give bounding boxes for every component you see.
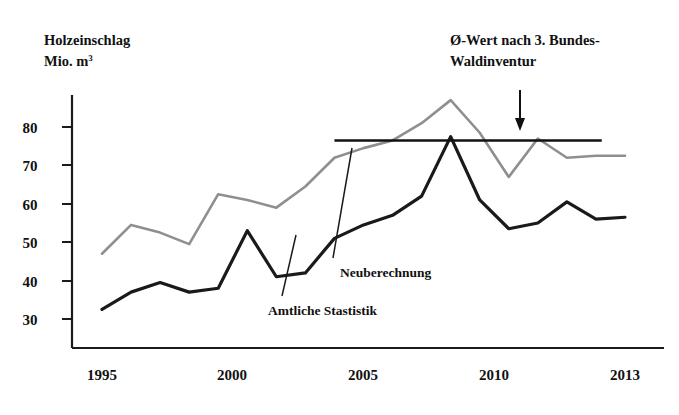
page-title: Holzeinschlag: [44, 32, 131, 48]
neuberechnung-label: Neuberechnung: [340, 265, 432, 280]
y-axis-unit-label: Mio. m3: [44, 53, 93, 69]
y-tick-label-80: 80: [23, 120, 38, 136]
x-tick-label-2010: 2010: [479, 367, 509, 383]
y-tick-label-50: 50: [23, 235, 38, 251]
reference-line-label-line2: Waldinventur: [450, 53, 537, 69]
y-tick-label-40: 40: [23, 274, 38, 290]
x-tick-label-2013: 2013: [610, 367, 640, 383]
reference-line-label-line1: Ø-Wert nach 3. Bundes-: [450, 32, 600, 48]
y-tick-label-30: 30: [23, 312, 38, 328]
amtliche-statistik-label: Amtliche Stastistik: [268, 303, 378, 318]
holzeinschlag-line-chart: Holzeinschlag Mio. m3 Ø-Wert nach 3. Bun…: [0, 0, 679, 415]
chart-container: Holzeinschlag Mio. m3 Ø-Wert nach 3. Bun…: [0, 0, 679, 415]
x-tick-label-2005: 2005: [348, 367, 378, 383]
y-tick-label-70: 70: [23, 158, 38, 174]
x-tick-label-2000: 2000: [217, 367, 247, 383]
y-tick-label-60: 60: [23, 197, 38, 213]
x-tick-label-1995: 1995: [87, 367, 117, 383]
